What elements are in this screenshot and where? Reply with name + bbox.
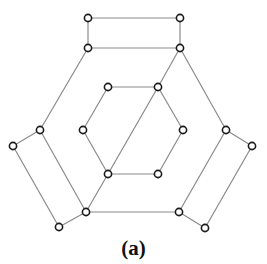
graph-edges <box>13 18 252 228</box>
graph-node-l2 <box>9 142 16 149</box>
graph-edge <box>13 146 59 227</box>
graph-edge <box>13 130 40 146</box>
graph-edge <box>83 130 108 174</box>
graph-edge <box>40 48 88 130</box>
graph-edge <box>226 130 252 146</box>
graph-node-t2 <box>176 14 183 21</box>
graph-node-r2 <box>248 142 255 149</box>
graph-edge <box>86 174 108 212</box>
graph-node-h2 <box>154 83 161 90</box>
graph-edge <box>179 212 205 228</box>
graph-edge <box>40 130 86 212</box>
graph-node-l4 <box>82 208 89 215</box>
graph-edge <box>59 212 86 227</box>
graph-node-r1 <box>222 126 229 133</box>
graph-svg <box>0 0 267 264</box>
graph-node-h1 <box>104 83 111 90</box>
graph-nodes <box>9 14 255 231</box>
graph-node-h5 <box>104 170 111 177</box>
graph-node-h4 <box>154 170 161 177</box>
graph-edge <box>108 87 158 174</box>
graph-edge <box>179 130 226 212</box>
figure-caption: (a) <box>0 236 267 261</box>
graph-node-r4 <box>175 208 182 215</box>
graph-node-l1 <box>36 126 43 133</box>
graph-node-l3 <box>55 223 62 230</box>
graph-edge <box>158 87 183 130</box>
graph-edge <box>158 48 180 87</box>
graph-node-h6 <box>79 126 86 133</box>
graph-edge <box>205 146 252 228</box>
graph-diagram: (a) <box>0 0 267 264</box>
graph-edge <box>158 130 183 174</box>
graph-edge <box>83 87 108 130</box>
graph-node-h3 <box>179 126 186 133</box>
graph-node-r3 <box>201 224 208 231</box>
graph-node-t3 <box>84 44 91 51</box>
graph-node-t4 <box>176 44 183 51</box>
graph-node-t1 <box>84 14 91 21</box>
graph-edge <box>180 48 226 130</box>
